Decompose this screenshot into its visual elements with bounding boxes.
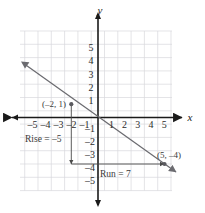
y-tick-pos-2: 2 [89, 82, 94, 93]
y-axis-label: y [97, 4, 103, 16]
x-tick-neg-2: –2 [66, 119, 77, 130]
x-tick-neg-4: –4 [40, 119, 51, 130]
graph-figure: x y –5 –4 –3 –2 –1 1 2 3 4 5 5 4 3 2 1 –… [0, 0, 205, 213]
x-axis-label: x [187, 111, 193, 123]
rise-label: Rise = –5 [25, 134, 62, 144]
x-tick-neg-3: –3 [53, 119, 64, 130]
y-tick-pos-5: 5 [89, 42, 94, 53]
coordinate-plane-svg: x y –5 –4 –3 –2 –1 1 2 3 4 5 5 4 3 2 1 –… [0, 0, 205, 213]
x-tick-pos-1: 1 [109, 119, 114, 130]
run-label: Run = 7 [100, 169, 131, 179]
y-tick-neg-5: –5 [84, 175, 95, 186]
point-b-label: (5, –4) [157, 150, 181, 160]
x-tick-pos-3: 3 [135, 119, 140, 130]
x-tick-pos-2: 2 [122, 119, 127, 130]
y-tick-neg-3: –3 [84, 149, 95, 160]
y-tick-pos-1: 1 [89, 95, 94, 106]
point-a-label: (–2, 1) [42, 99, 66, 109]
x-tick-pos-4: 4 [149, 119, 154, 130]
y-tick-pos-3: 3 [89, 69, 94, 80]
point-a-marker [69, 102, 73, 106]
x-tick-pos-5: 5 [162, 119, 167, 130]
point-b-marker [162, 162, 166, 166]
y-tick-neg-1: –1 [84, 123, 95, 134]
y-tick-pos-4: 4 [89, 55, 94, 66]
y-tick-neg-2: –2 [84, 136, 95, 147]
y-tick-neg-4: –4 [84, 162, 95, 173]
x-tick-neg-5: –5 [27, 119, 38, 130]
grid-lines [20, 31, 172, 191]
